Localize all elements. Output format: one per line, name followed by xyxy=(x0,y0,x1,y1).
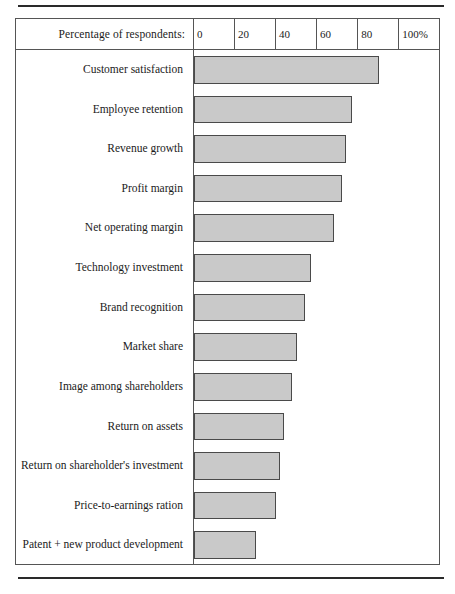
chart-plot-area: Customer satisfactionEmployee retentionR… xyxy=(16,50,439,564)
category-label: Image among shareholders xyxy=(16,367,190,407)
category-label: Revenue growth xyxy=(16,129,190,169)
x-tick-40: 40 xyxy=(275,19,316,49)
chart-row: Return on assets xyxy=(16,407,439,447)
bar xyxy=(194,214,334,242)
category-label: Market share xyxy=(16,327,190,367)
chart-page: Percentage of respondents: 020406080100%… xyxy=(0,0,455,594)
top-rule xyxy=(18,5,444,7)
bar xyxy=(194,452,280,480)
bar xyxy=(194,56,379,84)
bar xyxy=(194,254,311,282)
bottom-rule xyxy=(18,577,444,579)
chart-row: Patent + new product development xyxy=(16,525,439,565)
bar xyxy=(194,531,256,559)
x-tick-label: 80 xyxy=(361,28,372,40)
x-axis-scale: 020406080100% xyxy=(193,19,439,49)
bar xyxy=(194,96,352,124)
bar xyxy=(194,492,276,520)
bar xyxy=(194,175,342,203)
chart-row: Return on shareholder's investment xyxy=(16,446,439,486)
x-tick-80: 80 xyxy=(357,19,398,49)
bar xyxy=(194,294,305,322)
category-label: Employee retention xyxy=(16,90,190,130)
category-label: Price-to-earnings ration xyxy=(16,486,190,526)
x-tick-label: 60 xyxy=(320,28,331,40)
chart-row: Technology investment xyxy=(16,248,439,288)
chart-row: Market share xyxy=(16,327,439,367)
axis-header-label: Percentage of respondents: xyxy=(16,19,193,49)
bar xyxy=(194,373,292,401)
chart-header-row: Percentage of respondents: 020406080100% xyxy=(16,19,439,50)
x-tick-label: 40 xyxy=(279,28,290,40)
chart-row: Customer satisfaction xyxy=(16,50,439,90)
chart-row: Image among shareholders xyxy=(16,367,439,407)
category-label: Profit margin xyxy=(16,169,190,209)
chart-row: Employee retention xyxy=(16,90,439,130)
category-label: Return on shareholder's investment xyxy=(16,446,190,486)
chart-row: Revenue growth xyxy=(16,129,439,169)
category-label: Return on assets xyxy=(16,407,190,447)
chart-frame: Percentage of respondents: 020406080100%… xyxy=(15,18,440,565)
x-tick-label: 0 xyxy=(197,28,203,40)
x-tick-100: 100% xyxy=(398,19,441,49)
bar xyxy=(194,135,346,163)
category-label: Brand recognition xyxy=(16,288,190,328)
bar xyxy=(194,413,284,441)
chart-row: Price-to-earnings ration xyxy=(16,486,439,526)
chart-row: Net operating margin xyxy=(16,208,439,248)
x-tick-0: 0 xyxy=(193,19,234,49)
x-tick-60: 60 xyxy=(316,19,357,49)
category-label: Customer satisfaction xyxy=(16,50,190,90)
x-tick-20: 20 xyxy=(234,19,275,49)
x-tick-label: 20 xyxy=(238,28,249,40)
x-tick-label: 100% xyxy=(402,28,428,40)
bar xyxy=(194,333,297,361)
category-label: Technology investment xyxy=(16,248,190,288)
category-label: Patent + new product development xyxy=(16,525,190,565)
chart-row: Brand recognition xyxy=(16,288,439,328)
chart-row: Profit margin xyxy=(16,169,439,209)
category-label: Net operating margin xyxy=(16,208,190,248)
